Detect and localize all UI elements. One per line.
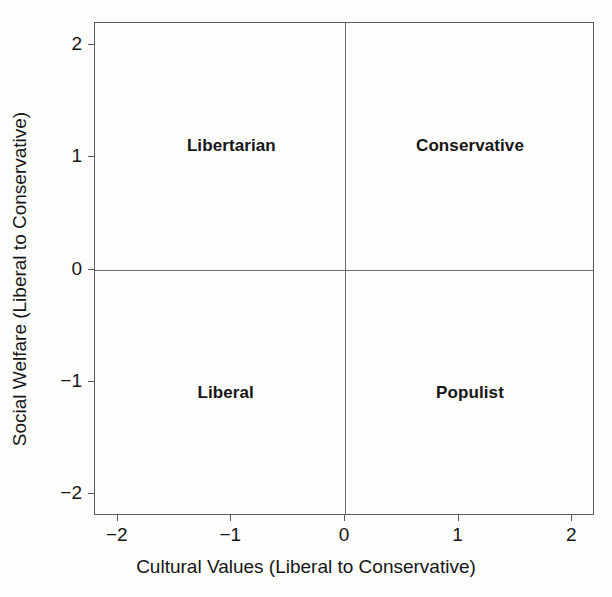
vertical-zero-reference-line <box>345 23 346 514</box>
x-tick-label: −1 <box>220 524 242 546</box>
x-tick-label: 0 <box>339 524 350 546</box>
x-tick-mark <box>230 515 231 521</box>
x-tick-label: 2 <box>566 524 577 546</box>
quadrant-chart-figure: Social Welfare (Liberal to Conservative)… <box>0 0 612 597</box>
y-tick-label: −2 <box>28 482 82 504</box>
x-tick-label: −2 <box>106 524 128 546</box>
x-tick-mark <box>458 515 459 521</box>
quadrant-label: Libertarian <box>187 136 276 156</box>
y-tick-label: 0 <box>28 258 82 280</box>
y-tick-label: 1 <box>28 145 82 167</box>
horizontal-zero-reference-line <box>95 270 593 271</box>
x-tick-label: 1 <box>452 524 463 546</box>
x-axis-title: Cultural Values (Liberal to Conservative… <box>0 556 612 578</box>
y-tick-label: 2 <box>28 33 82 55</box>
x-tick-mark <box>571 515 572 521</box>
y-tick-label: −1 <box>28 370 82 392</box>
x-tick-mark <box>117 515 118 521</box>
x-tick-mark <box>344 515 345 521</box>
quadrant-label: Conservative <box>416 136 524 156</box>
plot-area: LibertarianConservativeLiberalPopulist <box>94 22 594 515</box>
quadrant-label: Liberal <box>197 383 253 403</box>
quadrant-label: Populist <box>436 383 504 403</box>
